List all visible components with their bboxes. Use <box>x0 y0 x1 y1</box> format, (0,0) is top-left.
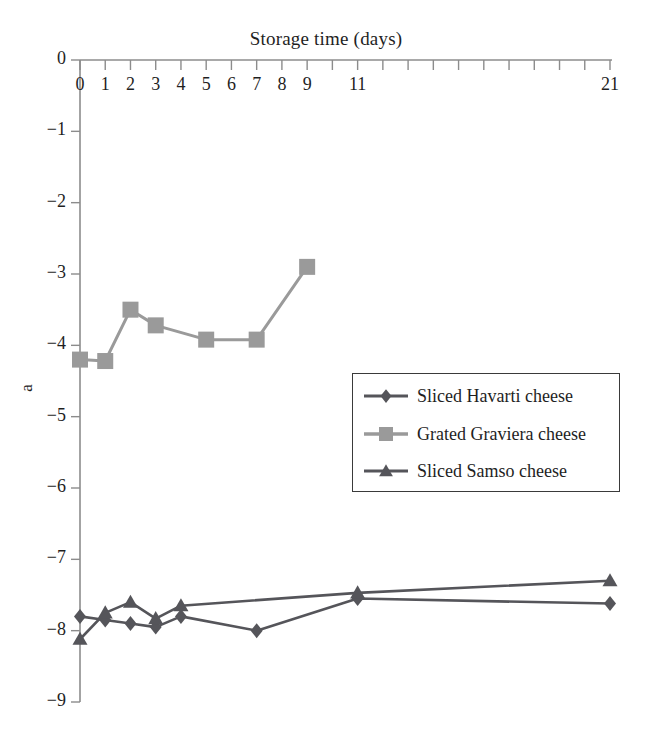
legend-item-2: Sliced Samso cheese <box>363 456 567 486</box>
y-tick-label: −1 <box>24 119 66 140</box>
legend-label-0: Sliced Havarti cheese <box>417 386 573 407</box>
series-2 <box>73 573 618 645</box>
y-tick-label: −4 <box>24 333 66 354</box>
legend-marker-square-icon <box>363 423 409 445</box>
data-point <box>251 623 263 638</box>
y-tick-label: −9 <box>24 690 66 711</box>
chart-container: Storage time (days) a 0−1−2−3−4−5−6−7−8−… <box>0 0 652 741</box>
legend-label-1: Grated Graviera cheese <box>417 424 586 445</box>
data-point <box>604 596 616 611</box>
legend-label-2: Sliced Samso cheese <box>417 461 567 482</box>
data-point <box>97 353 113 369</box>
y-tick-label: −5 <box>24 405 66 426</box>
data-point <box>198 332 214 348</box>
data-point <box>122 302 138 318</box>
legend-marker-triangle-icon <box>363 460 409 482</box>
y-tick-label: −6 <box>24 476 66 497</box>
data-point <box>72 352 88 368</box>
y-tick-label: −8 <box>24 619 66 640</box>
x-tick-label: 11 <box>343 74 373 95</box>
x-tick-label: 21 <box>595 74 625 95</box>
series-1 <box>72 259 315 369</box>
data-point <box>299 259 315 275</box>
data-point <box>74 609 86 624</box>
legend: Sliced Havarti cheese Grated Graviera ch… <box>352 373 620 492</box>
y-tick-label: −3 <box>24 262 66 283</box>
x-tick-label: 9 <box>292 74 322 95</box>
y-tick-label: 0 <box>24 48 66 69</box>
legend-item-1: Grated Graviera cheese <box>363 419 586 449</box>
data-point <box>148 317 164 333</box>
data-point <box>148 611 163 624</box>
data-point <box>123 595 138 608</box>
data-point <box>124 616 136 631</box>
plot-area <box>0 0 652 741</box>
y-tick-label: −7 <box>24 547 66 568</box>
legend-marker-diamond-icon <box>363 385 409 407</box>
legend-item-0: Sliced Havarti cheese <box>363 381 573 411</box>
y-tick-label: −2 <box>24 191 66 212</box>
data-point <box>249 332 265 348</box>
